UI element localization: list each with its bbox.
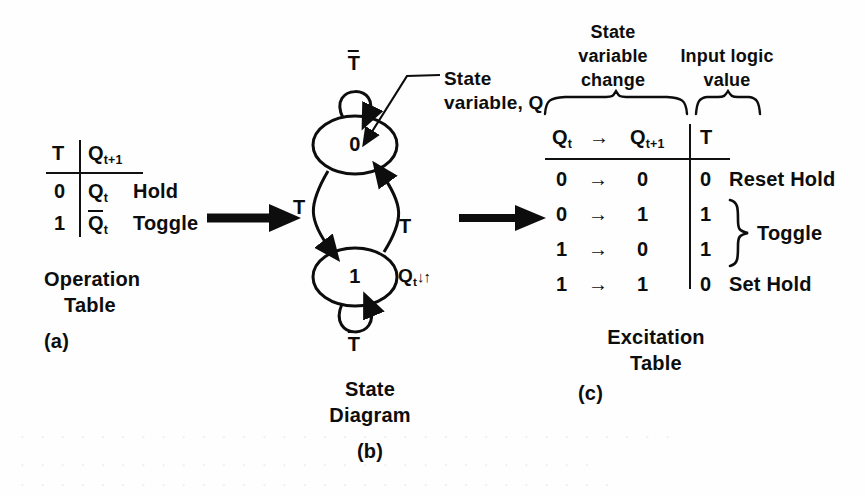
- excitation-table-row-note: Reset Hold: [729, 168, 835, 191]
- operation-table-row-next-state: Qt: [88, 180, 108, 203]
- operation-table-row-operation: Toggle: [133, 212, 198, 235]
- operation-table-caption-line2: Table: [64, 294, 116, 317]
- excitation-table-row-note: Set Hold: [729, 273, 812, 296]
- excitation-table-header-rule: [545, 158, 730, 160]
- self-loop-bottom-label: T: [348, 333, 360, 356]
- group-header-state-variable-change: State: [590, 22, 635, 43]
- group-header-state-variable-change: change: [581, 70, 645, 91]
- excitation-table-row: 0: [556, 203, 567, 226]
- t-overbar: T: [348, 333, 360, 356]
- group-header-input-logic-value: value: [703, 70, 750, 91]
- excitation-table-row: 0: [637, 168, 648, 191]
- operation-table-header-rule: [46, 172, 143, 174]
- excitation-table-row: 1: [637, 273, 648, 296]
- toggle-brace: [726, 198, 752, 268]
- excitation-table-row: 1: [556, 238, 567, 261]
- toggle-brace-label: Toggle: [757, 222, 822, 245]
- excitation-table-row-input: 1: [700, 238, 711, 261]
- state-diagram-caption-line2: Diagram: [329, 404, 410, 427]
- scan-artifact-line: · · · · · · · · · · · · · · · · · · · · …: [20, 430, 676, 446]
- operation-table-row: 1: [54, 212, 65, 235]
- excitation-row-arrow-icon: →: [588, 273, 608, 296]
- state-variable-annotation-line2: variable, Q: [444, 92, 543, 114]
- operation-table-column-divider: [79, 140, 81, 237]
- operation-table-row-operation: Hold: [133, 180, 178, 203]
- operation-table-row-next-state: Qt: [88, 212, 108, 235]
- excitation-header-input: T: [700, 126, 712, 149]
- excitation-row-arrow-icon: →: [588, 203, 608, 226]
- operation-table-caption-line1: Operation: [44, 268, 140, 291]
- excitation-table-row-input: 1: [700, 203, 711, 226]
- scan-artifact-line: · · · · · · · · · · · · · · · · · · · · …: [20, 478, 615, 494]
- excitation-table-row: 1: [637, 203, 648, 226]
- operation-table-row: 0: [54, 180, 65, 203]
- arrow-diagram-to-excitation: [458, 198, 548, 238]
- excitation-table-row: 1: [556, 273, 567, 296]
- state-diagram-part-label: (b): [357, 440, 383, 463]
- excitation-table-column-divider: [689, 124, 691, 289]
- figure-root: · · · · · · · · · · · · · · · · · · · · …: [0, 0, 865, 496]
- updown-arrows-icon: ↓↑: [417, 268, 430, 285]
- state-change-note: Qt↓↑: [398, 265, 430, 287]
- group-header-input-logic-value: Input logic: [680, 46, 773, 67]
- excitation-table-part-label: (c): [578, 382, 603, 405]
- scan-artifact-line: · · · · · · · · · · · · · · · · · · · · …: [20, 458, 595, 474]
- t-overbar: T: [348, 52, 360, 75]
- excitation-row-arrow-icon: →: [588, 238, 608, 261]
- excitation-table-caption-line2: Table: [630, 352, 682, 375]
- excitation-table-row: 0: [556, 168, 567, 191]
- excitation-row-arrow-icon: →: [588, 168, 608, 191]
- excitation-header-next-state: Qt+1: [630, 126, 665, 149]
- self-loop-top-label: T: [348, 52, 360, 75]
- state-diagram-caption-line1: State: [345, 378, 395, 401]
- q-overbar: Q: [88, 212, 104, 235]
- excitation-table-caption-line1: Excitation: [607, 326, 705, 349]
- operation-table-header-next-state: Qt+1: [88, 142, 123, 165]
- excitation-header-current-state: Qt: [552, 126, 572, 149]
- state-variable-annotation-line1: State: [444, 68, 491, 90]
- excitation-table-row-input: 0: [700, 273, 711, 296]
- group-brace-state-variable-change: [543, 94, 689, 116]
- state-0-label: 0: [349, 133, 360, 156]
- group-header-state-variable-change: variable: [578, 46, 648, 67]
- group-brace-input-logic-value: [694, 94, 762, 116]
- transition-left-label: T: [293, 196, 305, 219]
- excitation-header-arrow-icon: →: [589, 126, 609, 149]
- operation-table-header-input: T: [52, 142, 64, 165]
- excitation-table-row: 0: [637, 238, 648, 261]
- excitation-table-row-input: 0: [700, 168, 711, 191]
- state-1-label: 1: [349, 265, 360, 288]
- operation-table-part-label: (a): [44, 330, 69, 353]
- transition-right-label: T: [399, 215, 411, 238]
